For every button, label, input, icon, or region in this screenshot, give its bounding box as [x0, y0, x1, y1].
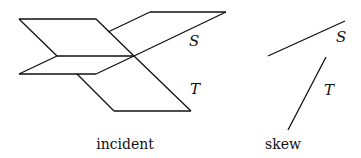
- skew-line-t-label: T: [324, 81, 334, 99]
- skew-line-s-label: S: [336, 28, 346, 46]
- incident-plane-t-label: T: [190, 80, 200, 98]
- skew-line-t: [288, 57, 326, 130]
- incident-plane-s-label: S: [189, 32, 199, 50]
- skew-caption: skew: [265, 136, 301, 152]
- skew-line-s: [268, 21, 345, 56]
- incident-caption: incident: [96, 136, 154, 152]
- diagram-canvas: [0, 0, 361, 158]
- plane-t-upper: [19, 19, 134, 56]
